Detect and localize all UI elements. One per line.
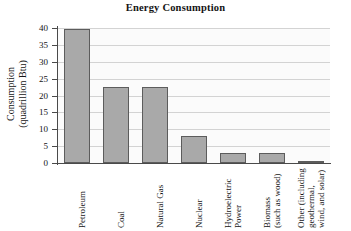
y-axis-tick bbox=[52, 112, 58, 113]
bar bbox=[181, 136, 207, 163]
y-axis-tick bbox=[52, 45, 58, 46]
x-axis-label-slot: Other (including geothermal, wind, and s… bbox=[294, 166, 328, 230]
bar bbox=[259, 153, 285, 163]
gridline bbox=[58, 45, 330, 46]
gridline bbox=[58, 62, 330, 63]
x-axis-tick-label: Coal bbox=[116, 166, 126, 228]
y-axis-tick bbox=[52, 62, 58, 63]
x-axis-tick-label: Petroleum bbox=[77, 166, 87, 228]
y-axis-tick-label: 35 bbox=[26, 41, 48, 50]
y-axis-tick-label: 5 bbox=[26, 142, 48, 151]
x-axis-tick-label: Hydroelectric Power bbox=[223, 166, 243, 228]
bar bbox=[220, 153, 246, 163]
y-axis-tick-label: 25 bbox=[26, 75, 48, 84]
chart-figure: Energy Consumption Consumption (quadrill… bbox=[0, 0, 351, 231]
bar bbox=[142, 87, 168, 163]
x-axis-label-slot: Natural Gas bbox=[138, 166, 172, 230]
gridline bbox=[58, 28, 330, 29]
bar bbox=[298, 161, 324, 163]
y-axis-tick bbox=[52, 96, 58, 97]
x-axis-label-slot: Hydroelectric Power bbox=[216, 166, 250, 230]
gridline bbox=[58, 79, 330, 80]
y-axis-tick-label: 40 bbox=[26, 24, 48, 33]
bar bbox=[103, 87, 129, 163]
x-axis-label-slot: Nuclear bbox=[177, 166, 211, 230]
gridline bbox=[58, 129, 330, 130]
chart-title: Energy Consumption bbox=[0, 2, 351, 13]
x-axis-label-slot: Coal bbox=[99, 166, 133, 230]
y-axis-tick bbox=[52, 129, 58, 130]
y-axis-tick-label: 15 bbox=[26, 108, 48, 117]
y-axis-tick bbox=[52, 146, 58, 147]
x-axis-tick-label: Nuclear bbox=[194, 166, 204, 228]
gridline bbox=[58, 96, 330, 97]
x-axis-label-slot: Biomass (such as wood) bbox=[255, 166, 289, 230]
y-axis-tick bbox=[52, 79, 58, 80]
x-axis-tick-label: Other (including geothermal, wind, and s… bbox=[296, 166, 326, 228]
x-axis-label-slot: Petroleum bbox=[60, 166, 94, 230]
y-axis-tick-label: 30 bbox=[26, 58, 48, 67]
y-axis-tick bbox=[52, 163, 58, 164]
x-axis-tick-label: Natural Gas bbox=[155, 166, 165, 228]
x-axis-tick-label: Biomass (such as wood) bbox=[262, 166, 282, 228]
y-axis-tick-label: 20 bbox=[26, 92, 48, 101]
y-axis-tick-label: 0 bbox=[26, 159, 48, 168]
y-axis-tick-label: 10 bbox=[26, 125, 48, 134]
x-axis-line bbox=[57, 163, 331, 164]
bar bbox=[64, 29, 90, 163]
gridline bbox=[58, 112, 330, 113]
y-axis-tick bbox=[52, 28, 58, 29]
